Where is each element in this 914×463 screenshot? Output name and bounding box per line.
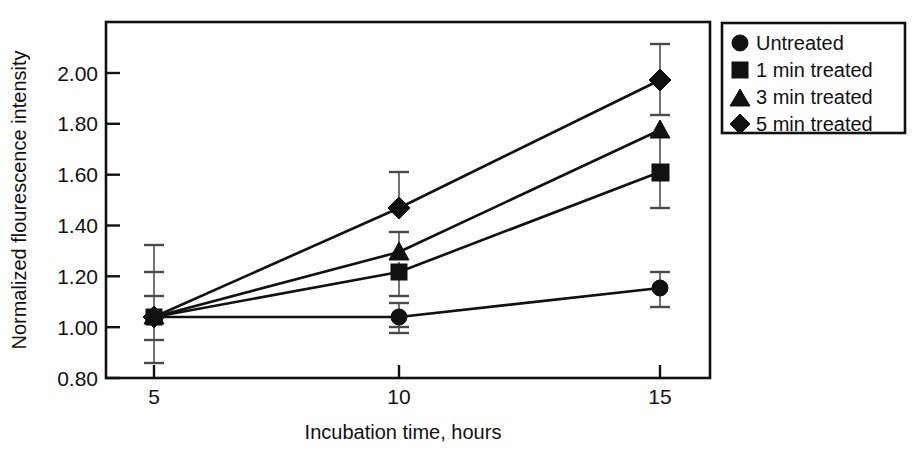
legend-label: 3 min treated	[756, 86, 873, 108]
marker-square	[391, 264, 407, 280]
y-tick-label: 0.80	[57, 367, 98, 390]
y-axis-tick-labels: 0.80 1.00 1.20 1.40 1.60 1.80 2.00	[57, 62, 98, 390]
marker-square	[652, 164, 669, 181]
legend-label: Untreated	[756, 32, 844, 54]
x-tick-label: 15	[648, 385, 671, 408]
x-tick-label: 10	[387, 385, 410, 408]
y-tick-label: 1.40	[57, 214, 98, 237]
legend-circle-icon	[732, 35, 748, 51]
y-axis-title: Normalized flourescence intensity	[8, 50, 30, 349]
y-tick-label: 1.60	[57, 163, 98, 186]
y-tick-label: 1.00	[57, 316, 98, 339]
marker-circle	[652, 280, 668, 296]
y-tick-label: 1.20	[57, 265, 98, 288]
x-tick-label: 5	[148, 385, 160, 408]
legend: Untreated 1 min treated 3 min treated 5 …	[722, 23, 905, 135]
legend-label: 5 min treated	[756, 113, 873, 135]
figure-container: 0.80 1.00 1.20 1.40 1.60 1.80 2.00 5 10 …	[0, 0, 914, 463]
legend-label: 1 min treated	[756, 59, 873, 81]
y-tick-label: 1.80	[57, 112, 98, 135]
marker-circle	[391, 309, 407, 325]
line-chart: 0.80 1.00 1.20 1.40 1.60 1.80 2.00 5 10 …	[0, 0, 914, 463]
legend-square-icon	[732, 62, 748, 78]
plot-frame	[106, 22, 710, 378]
y-tick-label: 2.00	[57, 62, 98, 85]
x-axis-title: Incubation time, hours	[305, 421, 502, 443]
x-axis-tick-labels: 5 10 15	[148, 385, 672, 408]
scan-artifact	[140, 173, 145, 194]
